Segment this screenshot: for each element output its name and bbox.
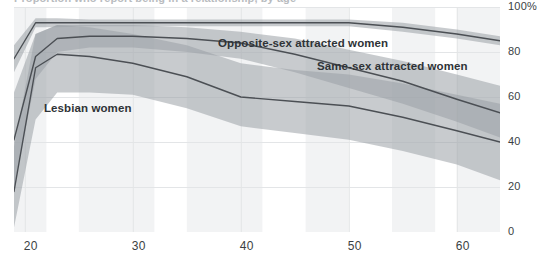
y-axis-tick-label: 80 [508, 45, 521, 57]
cropped-chart-title: Proportion who report being in a relatio… [0, 0, 546, 6]
chart-root: Proportion who report being in a relatio… [0, 0, 546, 257]
y-axis-tick-label: 60 [508, 90, 521, 102]
opposite-sex-attracted-women-label: Opposite-sex attracted women [218, 37, 388, 49]
x-axis-tick-label: 20 [24, 239, 38, 253]
chart-title-text: Proportion who report being in a relatio… [14, 0, 296, 4]
y-axis-tick-label: 100% [508, 0, 537, 12]
y-axis-tick-label: 20 [508, 180, 521, 192]
y-axis-tick-label: 0 [508, 225, 514, 237]
x-axis-tick-label: 30 [132, 239, 146, 253]
same-sex-attracted-women-label: Same-sex attracted women [317, 60, 468, 72]
x-axis-tick-label: 50 [348, 239, 362, 253]
x-axis-tick-label: 60 [456, 239, 470, 253]
lesbian-women-label: Lesbian women [44, 102, 132, 114]
x-axis-tick-label: 40 [240, 239, 254, 253]
y-axis-tick-label: 40 [508, 135, 521, 147]
